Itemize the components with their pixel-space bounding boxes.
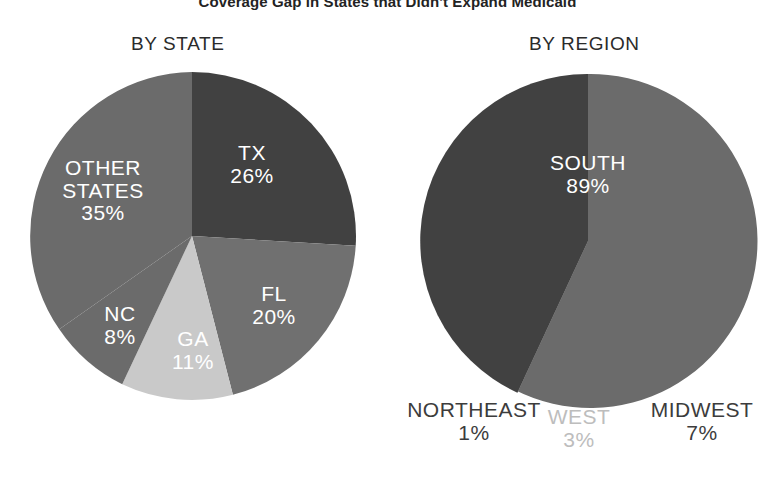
slice-label-other-states-value: 35% bbox=[28, 202, 178, 225]
slice-label-west: WEST 3% bbox=[543, 406, 615, 451]
slice-label-south-value: 89% bbox=[528, 175, 648, 198]
slice-label-other-states-name-line1: OTHER bbox=[28, 157, 178, 180]
chart-page: Coverage Gap in States that Didn't Expan… bbox=[0, 0, 775, 477]
slice-label-midwest-name: MIDWEST bbox=[640, 399, 764, 422]
slice-label-northeast-name: NORTHEAST bbox=[404, 399, 544, 422]
slice-label-midwest-value: 7% bbox=[640, 422, 764, 445]
slice-label-fl-value: 20% bbox=[234, 306, 314, 329]
slice-label-northeast-value: 1% bbox=[404, 422, 544, 445]
slice-label-other-states: OTHER STATES 35% bbox=[28, 157, 178, 225]
slice-label-fl: FL 20% bbox=[234, 283, 314, 328]
slice-label-fl-name: FL bbox=[234, 283, 314, 306]
slice-label-ga-name: GA bbox=[156, 328, 230, 351]
slice-label-ga-value: 11% bbox=[156, 351, 230, 374]
slice-label-tx-value: 26% bbox=[209, 165, 295, 188]
slice-label-tx-name: TX bbox=[209, 142, 295, 165]
slice-label-nc: NC 8% bbox=[83, 303, 157, 348]
slice-label-south: SOUTH 89% bbox=[528, 152, 648, 197]
slice-label-northeast: NORTHEAST 1% bbox=[404, 399, 544, 444]
slice-label-south-name: SOUTH bbox=[528, 152, 648, 175]
slice-label-midwest: MIDWEST 7% bbox=[640, 399, 764, 444]
slice-label-other-states-name-line2: STATES bbox=[28, 180, 178, 203]
slice-label-ga: GA 11% bbox=[156, 328, 230, 373]
slice-label-west-value: 3% bbox=[543, 429, 615, 452]
slice-label-nc-value: 8% bbox=[83, 326, 157, 349]
slice-label-tx: TX 26% bbox=[209, 142, 295, 187]
slice-label-west-name: WEST bbox=[543, 406, 615, 429]
slice-label-nc-name: NC bbox=[83, 303, 157, 326]
